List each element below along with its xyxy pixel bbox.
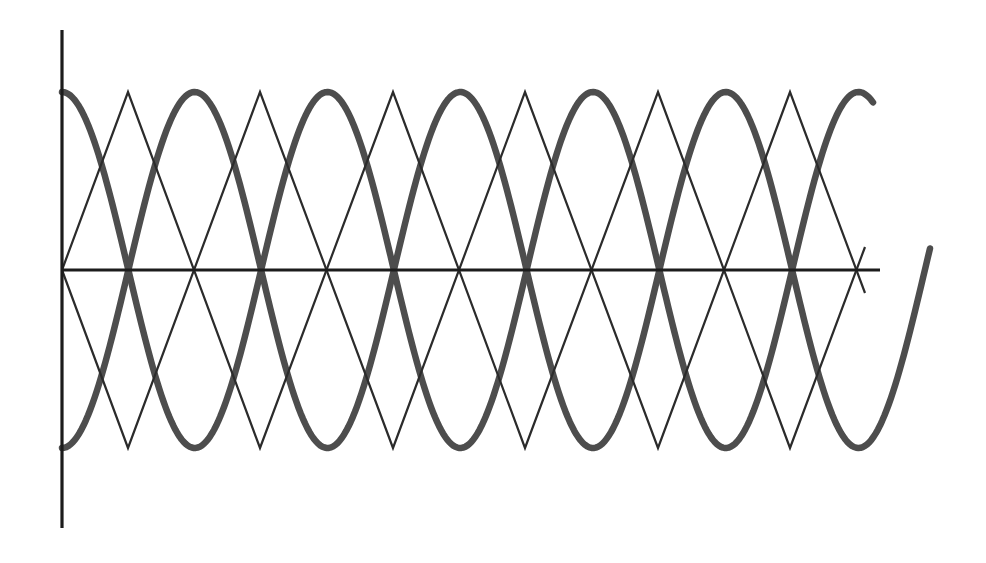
plot-canvas <box>0 0 986 563</box>
waveform-figure <box>0 0 986 563</box>
plot-background <box>0 0 986 563</box>
